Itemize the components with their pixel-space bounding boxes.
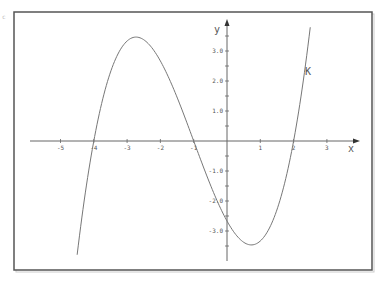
y-tick-label: -3.0 xyxy=(209,227,224,234)
x-tick-label: -5 xyxy=(57,144,65,151)
y-tick-label: 2.0 xyxy=(212,77,223,84)
x-axis-label: x xyxy=(348,143,354,154)
x-tick-label: -4 xyxy=(90,144,98,151)
x-tick-label: -3 xyxy=(123,144,131,151)
y-tick-label: -1.0 xyxy=(209,167,224,174)
x-tick-label: -2 xyxy=(157,144,165,151)
x-tick-label: 3 xyxy=(325,144,329,151)
y-tick-label: 3.0 xyxy=(212,47,223,54)
curve-label-k: K xyxy=(305,66,311,77)
chart-canvas: -5-4-3-2-1123 3.02.01.0-1.0-2.0-3.0 x y … xyxy=(0,0,382,283)
y-tick-label: 1.0 xyxy=(212,107,223,114)
x-tick-label: 1 xyxy=(258,144,262,151)
y-axis-label: y xyxy=(214,24,220,35)
